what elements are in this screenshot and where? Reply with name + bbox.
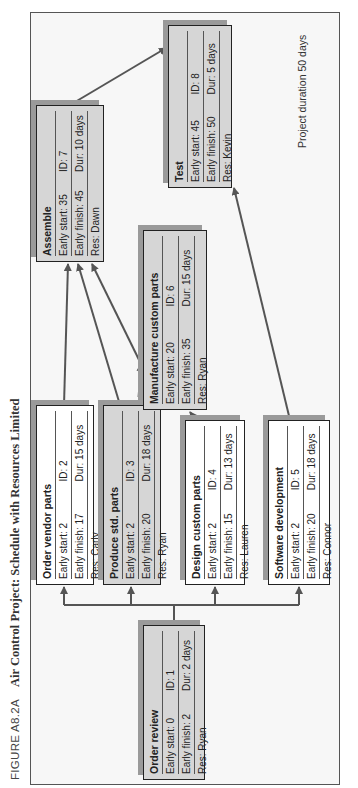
duration: Dur: 18 days	[141, 411, 152, 482]
early-start: Early start: 2	[207, 490, 218, 579]
duration: Dur: 15 days	[181, 236, 192, 307]
early-finish: Early finish: 2	[181, 691, 192, 774]
duration: Dur: 2 days	[181, 631, 192, 691]
early-finish: Early finish: 45	[74, 172, 85, 256]
early-start: Early start: 2	[125, 482, 136, 579]
resource: Res: Dawn	[90, 172, 101, 256]
activity-id: ID: 3	[125, 411, 136, 482]
arrow-design-to-manufacture	[190, 412, 196, 420]
early-start: Early start: 2	[58, 482, 69, 579]
early-finish: Early finish: 20	[141, 482, 152, 579]
early-finish: Early finish: 15	[223, 490, 234, 579]
early-finish: Early finish: 17	[74, 482, 85, 579]
activity-id: ID: 8	[190, 31, 201, 94]
resource: Res: Carly	[90, 482, 101, 579]
early-finish: Early finish: 20	[306, 490, 317, 579]
arrow-produce-std-to-manufacture-dashed	[138, 364, 141, 405]
duration: Dur: 5 days	[206, 31, 217, 94]
activity-id: ID: 5	[290, 426, 301, 490]
node-order-review[interactable]: Order review Early start: 0ID: 1 Early f…	[143, 625, 205, 780]
node-name: Produce std. parts	[106, 411, 123, 579]
early-finish: Early finish: 35	[181, 307, 192, 404]
node-name: Test	[171, 31, 188, 182]
diagram-stage: FIGURE A8.2A Air Control Project: Schedu…	[0, 0, 358, 788]
activity-id: ID: 4	[207, 426, 218, 490]
resource: Res: Connor	[322, 490, 333, 579]
duration: Dur: 10 days	[74, 111, 85, 172]
arrow-manufacture-to-assemble	[92, 264, 143, 368]
project-duration-note: Project duration 50 days	[296, 35, 308, 148]
early-start: Early start: 20	[165, 307, 176, 404]
node-name: Manufacture custom parts	[146, 236, 163, 404]
arrow-produce-std-to-assemble	[78, 264, 120, 405]
resource: Res: Kevin	[222, 94, 233, 182]
node-design-custom-parts[interactable]: Design custom parts Early start: 2ID: 4 …	[185, 420, 245, 585]
early-start: Early start: 45	[190, 94, 201, 182]
activity-id: ID: 1	[165, 631, 176, 691]
duration: Dur: 15 days	[74, 411, 85, 482]
node-name: Order review	[146, 631, 163, 774]
node-name: Assemble	[39, 111, 56, 256]
node-test[interactable]: Test Early start: 45ID: 8 Early finish: …	[168, 25, 232, 188]
early-finish: Early finish: 50	[206, 94, 217, 182]
early-start: Early start: 35	[58, 172, 69, 256]
resource: Res: Ryan	[197, 691, 208, 774]
activity-id: ID: 6	[165, 236, 176, 307]
arrow-software-to-test	[234, 188, 290, 420]
arrow-order-vendor-to-assemble	[64, 264, 68, 405]
duration: Dur: 18 days	[306, 426, 317, 490]
activity-id: ID: 2	[58, 411, 69, 482]
resource: Res: Ryan	[197, 307, 208, 404]
node-assemble[interactable]: Assemble Early start: 35ID: 7 Early fini…	[36, 105, 104, 262]
activity-id: ID: 7	[58, 111, 69, 172]
arrow-assemble-to-test	[70, 48, 166, 105]
early-start: Early start: 2	[290, 490, 301, 579]
node-order-vendor-parts[interactable]: Order vendor parts Early start: 2ID: 2 E…	[36, 405, 94, 585]
node-name: Order vendor parts	[39, 411, 56, 579]
node-produce-std-parts[interactable]: Produce std. parts Early start: 2ID: 3 E…	[103, 405, 161, 585]
node-manufacture-custom-parts[interactable]: Manufacture custom parts Early start: 20…	[143, 230, 207, 410]
resource: Res: Ryan	[157, 482, 168, 579]
resource: Res: Lauren	[239, 490, 250, 579]
node-name: Software development	[271, 426, 288, 579]
node-software-development[interactable]: Software development Early start: 2ID: 5…	[268, 420, 330, 585]
early-start: Early start: 0	[165, 691, 176, 774]
node-name: Design custom parts	[188, 426, 205, 579]
duration: Dur: 13 days	[223, 426, 234, 490]
